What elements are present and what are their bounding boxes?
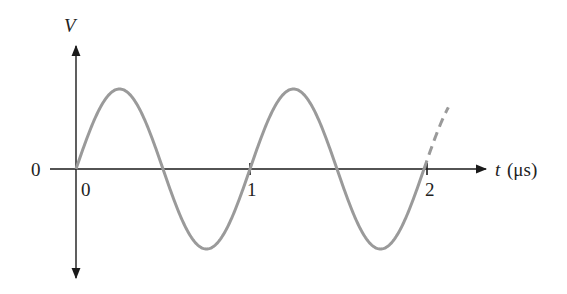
sine-curve-continuation (424, 107, 448, 169)
x-axis-unit: (μs) (507, 159, 537, 181)
tick-label-1: 1 (247, 179, 257, 200)
y-axis-label: V (64, 15, 78, 36)
tick-label-0: 0 (81, 179, 91, 200)
origin-y-label: 0 (31, 159, 41, 180)
sine-wave-diagram: V 0 0 1 2 t (μs) (0, 0, 567, 294)
tick-label-2: 2 (425, 179, 435, 200)
x-axis-label: t (495, 159, 501, 180)
